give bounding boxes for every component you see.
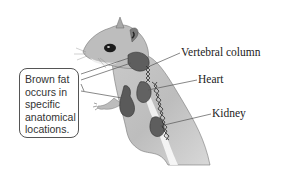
label-heart: Heart bbox=[198, 74, 224, 86]
squirrel-body bbox=[93, 54, 210, 165]
leader-callout-shoulder-1 bbox=[81, 91, 122, 98]
leader-vertebral-column bbox=[150, 53, 180, 66]
label-kidney: Kidney bbox=[212, 108, 246, 120]
brown-fat-heart bbox=[137, 82, 151, 103]
brown-fat-diagram: Brown fat occurs in specific anatomical … bbox=[0, 0, 281, 180]
leader-callout-notch bbox=[81, 84, 84, 91]
callout-line-3: specific bbox=[25, 98, 78, 111]
callout-line-2: occurs in bbox=[25, 86, 78, 99]
label-vertebral-column: Vertebral column bbox=[181, 47, 261, 59]
callout-line-4: anatomical bbox=[25, 111, 78, 124]
callout-line-1: Brown fat bbox=[25, 73, 78, 86]
callout-line-5: locations. bbox=[25, 123, 78, 136]
brown-fat-callout: Brown fat occurs in specific anatomical … bbox=[19, 68, 79, 138]
